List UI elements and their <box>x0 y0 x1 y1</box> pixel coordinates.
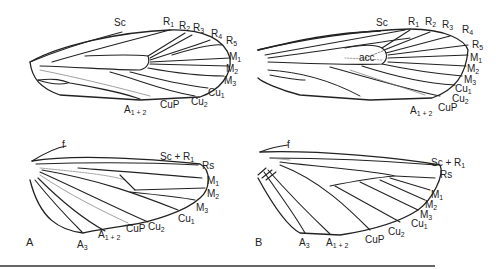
vein-label: R1 <box>163 17 174 30</box>
panel-label-a: A <box>26 236 33 248</box>
vein-label: R3 <box>193 23 204 36</box>
vein-label: R2 <box>425 17 436 30</box>
accessory-cell-label: acc <box>359 53 375 63</box>
vein-label: CuP <box>365 235 384 245</box>
vein-label: CuP <box>438 103 457 113</box>
vein-label: Rs <box>440 170 452 180</box>
wing-venation-figure: Sc R1 R2 R3 R4 R5 M1 M2 M3 Cu1 Cu2 CuP A… <box>0 0 496 269</box>
vein-label: CuP <box>126 224 145 234</box>
vein-label: A3 <box>77 240 88 253</box>
vein-label: Cu2 <box>148 222 165 235</box>
vein-label: A3 <box>299 238 310 251</box>
panel-label-b: B <box>255 236 262 248</box>
vein-label: A1 + 2 <box>326 238 348 251</box>
vein-label: M3 <box>196 203 208 216</box>
vein-label: R4 <box>211 29 222 42</box>
vein-label: Cu2 <box>388 227 405 240</box>
vein-label: M2 <box>207 189 219 202</box>
vein-label: R2 <box>179 21 190 34</box>
vein-label: Cu1 <box>411 219 428 232</box>
frenulum-label: f <box>287 140 290 150</box>
bottom-divider <box>0 265 435 267</box>
vein-label: Sc + R1 <box>160 152 194 165</box>
frenulum-label: f <box>62 140 65 150</box>
forewing-a-drawing <box>30 30 230 100</box>
vein-label: Cu1 <box>178 214 195 227</box>
vein-label: R3 <box>442 20 453 33</box>
vein-label: Rs <box>202 161 214 171</box>
vein-label: R1 <box>408 17 419 30</box>
vein-label: R5 <box>226 36 237 49</box>
vein-label: Cu1 <box>208 88 225 101</box>
vein-label: Sc <box>114 18 126 28</box>
vein-label: R4 <box>462 25 473 38</box>
vein-label: A1 + 2 <box>410 106 432 119</box>
vein-label: Cu2 <box>191 97 208 110</box>
vein-label: A1 + 2 <box>98 230 120 243</box>
vein-label: CuP <box>160 100 179 110</box>
vein-label: A1 + 2 <box>124 105 146 118</box>
vein-label: Sc <box>376 18 388 28</box>
vein-label: M3 <box>224 76 236 89</box>
forewing-b-drawing <box>258 29 468 100</box>
